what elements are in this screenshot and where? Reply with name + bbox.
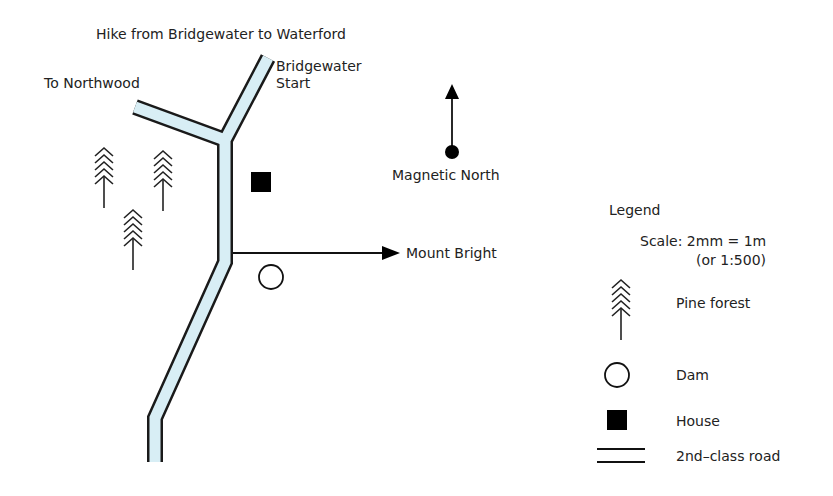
label-bridgewater-start: Bridgewater Start — [276, 58, 362, 92]
house-icon — [251, 172, 271, 192]
pine-forest-1 — [95, 148, 113, 208]
north-arrow-icon — [445, 84, 459, 159]
label-bridgewater: Bridgewater — [276, 58, 362, 75]
label-to-northwood: To Northwood — [44, 75, 140, 92]
pine-forest-2 — [154, 151, 172, 211]
legend-label-dam: Dam — [676, 367, 709, 384]
legend-label-house: House — [676, 413, 720, 430]
legend-title: Legend — [609, 202, 660, 219]
mount-bright-arrow-icon — [233, 246, 400, 260]
map-title: Hike from Bridgewater to Waterford — [96, 26, 346, 43]
legend-scale: Scale: 2mm = 1m — [640, 233, 766, 250]
label-magnetic-north: Magnetic North — [392, 167, 500, 184]
pine-forest-3 — [124, 210, 142, 270]
dam-icon — [259, 265, 283, 289]
legend-label-road: 2nd–class road — [676, 448, 780, 465]
legend-label-pine-forest: Pine forest — [676, 295, 750, 312]
road-network — [135, 58, 268, 468]
label-start: Start — [276, 75, 362, 92]
legend-dam-icon — [605, 363, 629, 387]
legend-scale-ratio: (or 1:500) — [696, 252, 766, 269]
label-mount-bright: Mount Bright — [406, 245, 497, 262]
legend-pine-forest-icon — [612, 280, 630, 340]
legend-road-icon — [597, 449, 645, 462]
legend-house-icon — [607, 410, 627, 430]
